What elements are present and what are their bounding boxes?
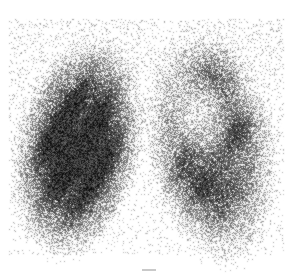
- scintigram-image: [0, 0, 292, 275]
- scale-tick-marker: [142, 269, 156, 271]
- scintigram-viewport[interactable]: Renal cortical scintigram posterior Left…: [0, 0, 292, 275]
